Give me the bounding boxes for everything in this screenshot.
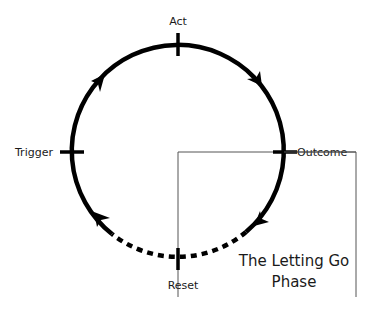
- label-trigger: Trigger: [14, 146, 53, 159]
- direction-arrows: [91, 71, 269, 227]
- label-letting-go-line1: The Letting Go: [238, 252, 350, 270]
- label-reset: Reset: [168, 279, 199, 292]
- label-act: Act: [169, 15, 187, 28]
- label-letting-go-line2: Phase: [272, 273, 317, 291]
- letting-go-bracket: [178, 152, 356, 297]
- habit-cycle-diagram: Act Trigger Outcome Reset The Letting Go…: [0, 0, 369, 310]
